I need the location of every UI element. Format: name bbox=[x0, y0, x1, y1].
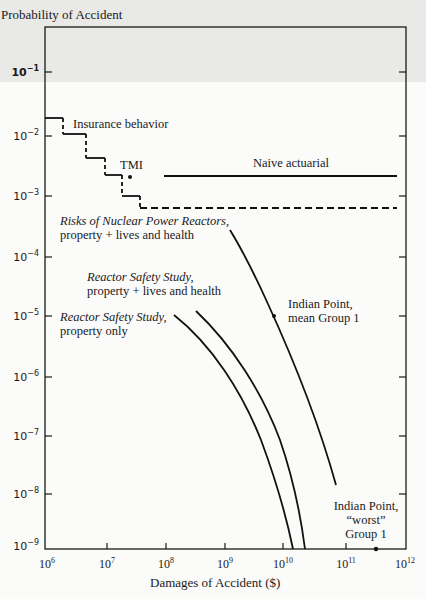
y-tick-label: 10−7 bbox=[13, 428, 39, 443]
series-rss-property-only-curve bbox=[174, 315, 293, 549]
series-rss-property-lives-curve bbox=[196, 311, 305, 549]
label-ip-worst-2: “worst” bbox=[328, 513, 404, 527]
label-npr-title: Risks of Nuclear Power Reactors, bbox=[60, 214, 229, 228]
label-rss-property-lives: Reactor Safety Study, property + lives a… bbox=[87, 270, 221, 298]
y-tick-label: 10−4 bbox=[13, 249, 39, 264]
y-tick-label: 10−8 bbox=[13, 486, 39, 501]
y-tick-label: 10−9 bbox=[13, 538, 39, 553]
y-tick-label: 10−1 bbox=[11, 64, 39, 79]
y-axis-title: Probability of Accident bbox=[1, 8, 122, 22]
x-tick-label: 106 bbox=[39, 556, 55, 572]
point-tmi bbox=[128, 175, 132, 179]
x-axis-ticks bbox=[107, 543, 346, 549]
x-tick-label: 108 bbox=[158, 556, 174, 572]
label-rss-property-only: Reactor Safety Study, property only bbox=[60, 310, 167, 338]
x-tick-label: 109 bbox=[217, 556, 233, 572]
x-tick-label: 1010 bbox=[273, 556, 293, 572]
x-tick-label: 1011 bbox=[336, 556, 356, 572]
label-rss1-title: Reactor Safety Study, bbox=[87, 270, 221, 284]
label-indian-point-worst: Indian Point, “worst” Group 1 bbox=[328, 499, 404, 541]
series-insurance-behavior bbox=[45, 118, 397, 208]
y-tick-label: 10−2 bbox=[13, 128, 39, 143]
y-tick-label: 10−3 bbox=[13, 188, 39, 203]
x-tick-label: 107 bbox=[99, 556, 115, 572]
label-npr: Risks of Nuclear Power Reactors, propert… bbox=[60, 214, 229, 242]
point-indian-point-worst bbox=[374, 547, 378, 551]
label-rss1-sub: property + lives and health bbox=[87, 284, 221, 298]
x-tick-label: 1012 bbox=[395, 556, 415, 572]
y-tick-label: 10−5 bbox=[13, 308, 39, 323]
label-tmi: TMI bbox=[120, 158, 143, 172]
label-ip-worst-1: Indian Point, bbox=[328, 499, 404, 513]
label-naive-actuarial: Naive actuarial bbox=[253, 156, 329, 170]
label-insurance-behavior: Insurance behavior bbox=[73, 117, 168, 131]
label-ip-mean-2: mean Group 1 bbox=[288, 311, 360, 325]
y-tick-label: 10−6 bbox=[13, 369, 39, 384]
label-npr-sub: property + lives and health bbox=[60, 228, 229, 242]
label-ip-worst-3: Group 1 bbox=[328, 527, 404, 541]
point-indian-point-mean bbox=[272, 314, 276, 318]
label-ip-mean-1: Indian Point, bbox=[288, 297, 360, 311]
x-axis-title: Damages of Accident ($) bbox=[150, 576, 280, 590]
label-rss2-title: Reactor Safety Study, bbox=[60, 310, 167, 324]
label-indian-point-mean: Indian Point, mean Group 1 bbox=[288, 297, 360, 325]
label-rss2-sub: property only bbox=[60, 324, 167, 338]
